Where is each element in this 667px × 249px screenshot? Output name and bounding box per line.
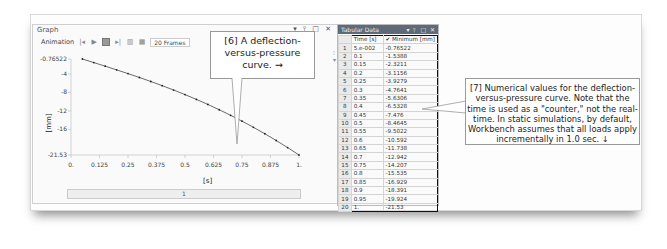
column-header-time[interactable]: Time [s] bbox=[351, 36, 383, 44]
minimum-cell[interactable]: -3.9279 bbox=[383, 77, 437, 85]
frames-select[interactable]: 20 Frames bbox=[150, 38, 189, 47]
row-index[interactable]: 12 bbox=[339, 136, 352, 144]
row-index[interactable]: 8 bbox=[339, 103, 352, 111]
table-row[interactable]: 15.e-002-0.76522 bbox=[339, 44, 438, 52]
result-frames-icon[interactable]: ▦ bbox=[138, 38, 146, 46]
table-row[interactable]: 30.15-2.3211 bbox=[339, 61, 438, 69]
row-index[interactable]: 10 bbox=[339, 119, 352, 127]
table-row[interactable]: 160.8-15.535 bbox=[339, 170, 438, 178]
row-index[interactable]: 18 bbox=[339, 187, 352, 195]
table-row[interactable]: 50.25-3.9279 bbox=[339, 77, 438, 85]
callout-7-pointer bbox=[420, 95, 470, 125]
animation-toolbar: Animation |◂ ▶ ▸| ▥ ▦ 20 Frames bbox=[41, 36, 190, 48]
table-row[interactable]: 130.65-11.738 bbox=[339, 145, 438, 153]
row-index[interactable]: 11 bbox=[339, 128, 352, 136]
row-index[interactable]: 9 bbox=[339, 111, 352, 119]
table-row[interactable]: 180.9-18.391 bbox=[339, 187, 438, 195]
minimum-cell[interactable]: -9.5022 bbox=[383, 128, 437, 136]
time-cell[interactable]: 0.95 bbox=[351, 195, 383, 203]
table-row[interactable]: 40.2-3.1156 bbox=[339, 69, 438, 77]
callout-6-pointer bbox=[228, 78, 248, 148]
column-header-minimum[interactable]: ✔ Minimum [mm] bbox=[383, 36, 437, 44]
row-index[interactable]: 13 bbox=[339, 145, 352, 153]
time-cell[interactable]: 0.45 bbox=[351, 111, 383, 119]
stop-icon[interactable] bbox=[102, 38, 110, 46]
corner-cell bbox=[339, 36, 352, 44]
table-row[interactable]: 201.-21.53 bbox=[339, 203, 438, 211]
row-index[interactable]: 4 bbox=[339, 69, 352, 77]
time-cell[interactable]: 0.2 bbox=[351, 69, 383, 77]
minimum-cell[interactable]: -19.924 bbox=[383, 195, 437, 203]
row-index[interactable]: 15 bbox=[339, 161, 352, 169]
time-cell[interactable]: 0.3 bbox=[351, 86, 383, 94]
minimum-cell[interactable]: -2.3211 bbox=[383, 61, 437, 69]
play-icon[interactable]: ▶ bbox=[90, 38, 98, 46]
table-row[interactable]: 170.85-16.929 bbox=[339, 178, 438, 186]
row-index[interactable]: 7 bbox=[339, 94, 352, 102]
time-cell[interactable]: 0.9 bbox=[351, 187, 383, 195]
time-cell[interactable]: 0.4 bbox=[351, 103, 383, 111]
time-cell[interactable]: 0.55 bbox=[351, 128, 383, 136]
time-cell[interactable]: 0.6 bbox=[351, 136, 383, 144]
row-index[interactable]: 14 bbox=[339, 153, 352, 161]
time-cell[interactable]: 1. bbox=[351, 203, 383, 211]
x-axis-title: [s] bbox=[203, 177, 212, 185]
table-row[interactable]: 110.55-9.5022 bbox=[339, 128, 438, 136]
time-cell[interactable]: 0.5 bbox=[351, 119, 383, 127]
table-row[interactable]: 140.7-12.942 bbox=[339, 153, 438, 161]
row-index[interactable]: 20 bbox=[339, 203, 352, 211]
time-cell[interactable]: 0.35 bbox=[351, 94, 383, 102]
minimum-cell[interactable]: -1.5388 bbox=[383, 52, 437, 60]
time-cell[interactable]: 0.8 bbox=[351, 170, 383, 178]
table-row[interactable]: 20.1-1.5388 bbox=[339, 52, 438, 60]
row-index[interactable]: 3 bbox=[339, 61, 352, 69]
time-cell[interactable]: 0.1 bbox=[351, 52, 383, 60]
callout-7: [7] Numerical values for the deflection-… bbox=[465, 78, 640, 145]
graph-scroll-arrows[interactable]: ⁝▾ bbox=[333, 49, 336, 63]
time-slider[interactable]: 1 bbox=[67, 189, 301, 199]
table-row[interactable]: 60.3-4.7641 bbox=[339, 86, 438, 94]
row-index[interactable]: 19 bbox=[339, 195, 352, 203]
animation-label: Animation bbox=[41, 38, 74, 46]
time-cell[interactable]: 0.85 bbox=[351, 178, 383, 186]
tabular-data-header: Tabular Data ▾ ⫯ □ ✕ bbox=[338, 25, 438, 34]
tabular-data-title: Tabular Data bbox=[341, 26, 379, 33]
callout-6: [6] A deflection-versus-pressure curve. … bbox=[210, 31, 315, 79]
time-cell[interactable]: 0.25 bbox=[351, 77, 383, 85]
time-cell[interactable]: 0.7 bbox=[351, 153, 383, 161]
row-index[interactable]: 2 bbox=[339, 52, 352, 60]
minimum-cell[interactable]: -3.1156 bbox=[383, 69, 437, 77]
minimum-cell[interactable]: -14.207 bbox=[383, 161, 437, 169]
distribute-frames-icon[interactable]: ▥ bbox=[126, 38, 134, 46]
minimum-cell[interactable]: -0.76522 bbox=[383, 44, 437, 52]
time-cell[interactable]: 5.e-002 bbox=[351, 44, 383, 52]
minimum-cell[interactable]: -16.929 bbox=[383, 178, 437, 186]
graph-title: Graph bbox=[37, 26, 58, 34]
tabular-window-buttons[interactable]: ▾ ⫯ □ ✕ bbox=[407, 25, 436, 34]
row-index[interactable]: 5 bbox=[339, 77, 352, 85]
table-row[interactable]: 150.75-14.207 bbox=[339, 161, 438, 169]
row-index[interactable]: 16 bbox=[339, 170, 352, 178]
time-cell[interactable]: 0.65 bbox=[351, 145, 383, 153]
minimum-cell[interactable]: -15.535 bbox=[383, 170, 437, 178]
minimum-cell[interactable]: -4.7641 bbox=[383, 86, 437, 94]
minimum-cell[interactable]: -21.53 bbox=[383, 203, 437, 211]
row-index[interactable]: 1 bbox=[339, 44, 352, 52]
rewind-icon[interactable]: |◂ bbox=[78, 38, 86, 46]
time-cell[interactable]: 0.15 bbox=[351, 61, 383, 69]
time-cell[interactable]: 0.75 bbox=[351, 161, 383, 169]
table-row[interactable]: 190.95-19.924 bbox=[339, 195, 438, 203]
step-forward-icon[interactable]: ▸| bbox=[114, 38, 122, 46]
table-row[interactable]: 120.6-10.592 bbox=[339, 136, 438, 144]
row-index[interactable]: 6 bbox=[339, 86, 352, 94]
minimum-cell[interactable]: -18.391 bbox=[383, 187, 437, 195]
minimum-cell[interactable]: -12.942 bbox=[383, 153, 437, 161]
minimum-cell[interactable]: -11.738 bbox=[383, 145, 437, 153]
minimum-cell[interactable]: -10.592 bbox=[383, 136, 437, 144]
row-index[interactable]: 17 bbox=[339, 178, 352, 186]
